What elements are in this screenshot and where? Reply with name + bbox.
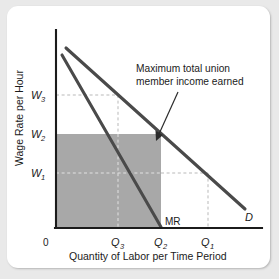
x-axis-title: Quantity of Labor per Time Period <box>69 250 227 262</box>
y-tick-w1-sub: 1 <box>41 173 45 182</box>
annotation-line-1: Maximum total union <box>136 63 230 74</box>
figure-card: Wage Rate per Hour Quantity of Labor per… <box>7 6 270 268</box>
economics-chart: Wage Rate per Hour Quantity of Labor per… <box>7 6 270 268</box>
x-tick-q2: Q <box>154 236 163 248</box>
annotation-line-2: member income earned <box>136 76 244 87</box>
demand-curve-label: D <box>245 211 253 223</box>
figure-root: Wage Rate per Hour Quantity of Labor per… <box>0 0 279 279</box>
y-tick-w2-sub: 2 <box>40 134 46 143</box>
shaded-income-area <box>56 134 161 228</box>
annotation-arrow-line <box>159 92 178 134</box>
y-axis-title: Wage Rate per Hour <box>13 70 25 166</box>
x-tick-q1: Q <box>201 236 210 248</box>
x-tick-q1-sub: 1 <box>210 242 214 251</box>
x-tick-q2-sub: 2 <box>162 242 168 251</box>
x-tick-q3: Q <box>111 236 120 248</box>
mr-curve-label: MR <box>165 216 181 227</box>
origin-label: 0 <box>43 237 49 248</box>
y-tick-w3-sub: 3 <box>41 95 46 104</box>
